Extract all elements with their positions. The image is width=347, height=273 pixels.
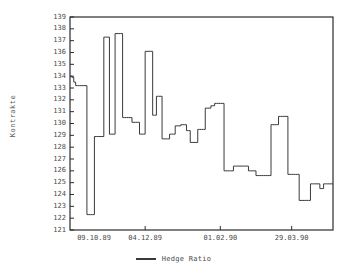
y-tick-label: 131	[40, 108, 66, 115]
axis-tick-marks	[70, 17, 292, 230]
y-tick-label: 134	[40, 73, 66, 80]
y-tick-label: 121	[40, 227, 66, 234]
data-series-layer	[70, 34, 333, 215]
y-tick-label: 130	[40, 120, 66, 127]
y-tick-label: 139	[40, 14, 66, 21]
y-tick-label: 127	[40, 156, 66, 163]
y-tick-label: 128	[40, 144, 66, 151]
x-tick-label: 04.12.89	[128, 235, 162, 242]
y-axis-tick-labels: 1211221231241251261271281291301311321331…	[40, 0, 66, 273]
y-tick-label: 129	[40, 132, 66, 139]
y-tick-label: 137	[40, 37, 66, 44]
x-tick-label: 29.03.90	[275, 235, 309, 242]
y-tick-label: 136	[40, 49, 66, 56]
y-axis-title: Kontrakte	[9, 81, 17, 151]
y-tick-label: 135	[40, 61, 66, 68]
y-tick-label: 123	[40, 203, 66, 210]
y-tick-label: 138	[40, 25, 66, 32]
y-tick-label: 122	[40, 215, 66, 222]
chart-legend: Hedge Ratio	[0, 255, 347, 263]
x-tick-label: 09.10.89	[77, 235, 111, 242]
y-tick-label: 125	[40, 179, 66, 186]
y-tick-label: 124	[40, 191, 66, 198]
chart-container: Kontrakte 121122123124125126127128129130…	[0, 0, 347, 273]
legend-label: Hedge Ratio	[162, 255, 212, 263]
legend-color-swatch	[136, 258, 156, 260]
y-tick-label: 132	[40, 96, 66, 103]
y-tick-label: 126	[40, 167, 66, 174]
x-tick-label: 01.02.90	[203, 235, 237, 242]
y-tick-label: 133	[40, 85, 66, 92]
